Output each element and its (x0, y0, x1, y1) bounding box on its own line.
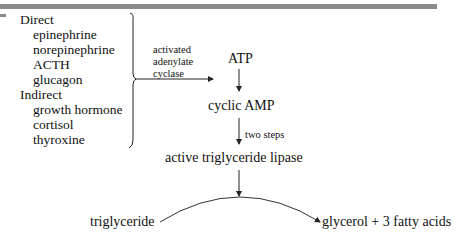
products-label: glycerol + 3 fatty acids (322, 214, 451, 229)
camp-label: cyclic AMP (208, 98, 275, 113)
brace-icon (129, 13, 136, 148)
pathway-lines (0, 0, 462, 245)
atp-label: ATP (228, 51, 253, 66)
substrate-label: triglyceride (90, 214, 155, 229)
arrow-reaction-icon (160, 197, 320, 222)
enzyme-label-line: cyclase (153, 67, 184, 80)
two-steps-label: two steps (245, 128, 284, 141)
lipase-label: active triglyceride lipase (165, 150, 303, 165)
